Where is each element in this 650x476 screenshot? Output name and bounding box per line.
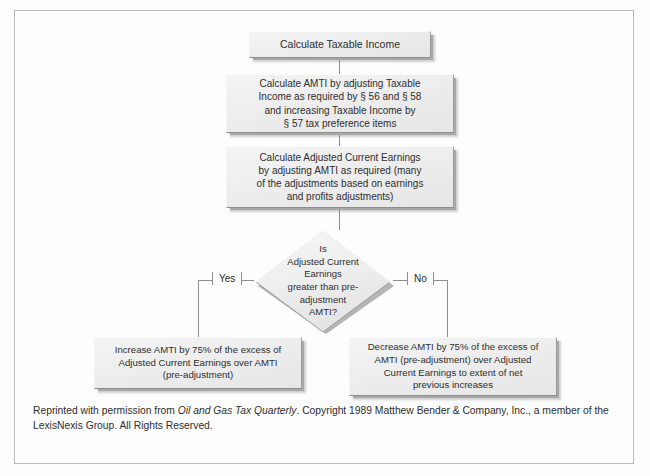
node-calculate-amti-label: Calculate AMTI by adjusting Taxable Inco…: [253, 77, 428, 130]
connector-amti-to-ace: [339, 133, 340, 146]
branch-label-yes: Yes: [212, 272, 242, 285]
connector-taxable-to-amti: [339, 58, 340, 74]
connector-no-vertical: [447, 280, 448, 337]
connector-no-horizontal-right: [434, 280, 448, 281]
node-decision-ace-greater-than-amti[interactable]: Is Adjusted Current Earnings greater tha…: [252, 227, 394, 335]
node-calculate-ace-label: Calculate Adjusted Current Earnings by a…: [251, 151, 430, 204]
node-decrease-amti[interactable]: Decrease AMTI by 75% of the excess of AM…: [349, 337, 557, 396]
node-decrease-amti-label: Decrease AMTI by 75% of the excess of AM…: [362, 341, 545, 392]
flowchart-page: Calculate Taxable Income Calculate AMTI …: [0, 0, 650, 476]
node-calculate-ace[interactable]: Calculate Adjusted Current Earnings by a…: [226, 146, 454, 208]
node-calculate-amti[interactable]: Calculate AMTI by adjusting Taxable Inco…: [226, 74, 454, 133]
branch-label-no-text: No: [414, 273, 427, 284]
node-calculate-taxable-income[interactable]: Calculate Taxable Income: [249, 31, 431, 58]
footer-text-before: Reprinted with permission from: [33, 405, 178, 416]
footer-attribution: Reprinted with permission from Oil and G…: [33, 404, 613, 433]
branch-label-no: No: [407, 272, 434, 285]
branch-label-yes-text: Yes: [219, 273, 235, 284]
connector-no-horizontal: [393, 280, 407, 281]
node-increase-amti[interactable]: Increase AMTI by 75% of the excess of Ad…: [94, 337, 302, 389]
node-calculate-taxable-income-label: Calculate Taxable Income: [274, 38, 406, 52]
connector-yes-vertical: [198, 280, 199, 337]
node-increase-amti-label: Increase AMTI by 75% of the excess of Ad…: [109, 344, 287, 382]
connector-yes-horizontal-left: [198, 280, 212, 281]
node-decision-label: Is Adjusted Current Earnings greater tha…: [272, 237, 374, 325]
footer-journal-title: Oil and Gas Tax Quarterly: [178, 405, 297, 416]
